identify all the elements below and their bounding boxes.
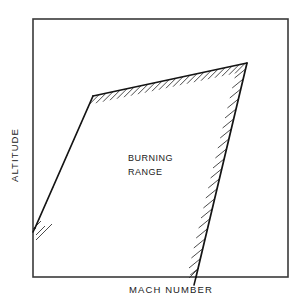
figure-root: BURNING RANGE MACH NUMBER ALTITUDE [0, 0, 306, 300]
figure-background [0, 0, 306, 300]
burning-range-diagram: BURNING RANGE MACH NUMBER ALTITUDE [0, 0, 306, 300]
x-axis-label: MACH NUMBER [129, 284, 213, 295]
burning-range-label-line2: RANGE [128, 167, 163, 177]
burning-range-label-line1: BURNING [128, 153, 173, 163]
y-axis-label: ALTITUDE [9, 128, 20, 182]
